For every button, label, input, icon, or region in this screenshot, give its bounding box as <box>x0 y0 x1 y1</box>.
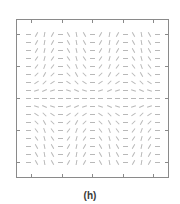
field-segment <box>98 98 103 99</box>
field-segment <box>155 114 160 115</box>
field-segment <box>26 50 31 51</box>
field-segment <box>90 34 95 35</box>
field-segment <box>90 82 95 83</box>
field-segment <box>115 98 120 99</box>
field-segment <box>123 154 128 155</box>
field-segment <box>155 146 160 147</box>
field-segment <box>155 122 160 123</box>
field-segment <box>155 162 160 163</box>
field-segment <box>131 98 136 99</box>
field-segment <box>155 154 160 155</box>
field-segment <box>58 90 63 91</box>
field-segment <box>107 98 112 99</box>
x-tick-top <box>153 19 154 23</box>
field-segment <box>26 130 31 131</box>
field-segment <box>90 74 95 75</box>
field-segment <box>90 50 95 51</box>
x-tick-bottom <box>153 174 154 178</box>
field-segment <box>108 159 110 164</box>
field-segment <box>123 106 128 107</box>
field-segment <box>90 66 95 67</box>
field-segment <box>90 106 95 107</box>
field-segment <box>155 130 160 131</box>
field-segment <box>26 138 31 139</box>
field-segment <box>26 146 31 147</box>
field-segment <box>123 42 128 43</box>
field-segment <box>26 162 31 163</box>
field-segment <box>155 50 160 51</box>
field-segment <box>90 130 95 131</box>
field-segment <box>90 146 95 147</box>
field-segment <box>155 138 160 139</box>
field-segment <box>123 146 128 147</box>
field-segment <box>42 98 47 99</box>
field-segment <box>155 82 160 83</box>
y-tick-left <box>16 130 20 131</box>
field-segment <box>58 42 63 43</box>
y-tick-left <box>16 34 20 35</box>
vector-field-figure: (h) <box>0 0 180 204</box>
field-segment <box>90 154 95 155</box>
field-segment <box>123 162 128 163</box>
y-tick-right <box>165 130 169 131</box>
x-tick-bottom <box>123 174 124 178</box>
x-tick-bottom <box>62 174 63 178</box>
field-segment <box>26 58 31 59</box>
field-segment <box>155 90 160 91</box>
field-segment <box>155 66 160 67</box>
x-tick-top <box>62 19 63 23</box>
field-segment <box>26 114 31 115</box>
field-segment <box>123 82 128 83</box>
field-segment <box>108 151 110 156</box>
field-segment <box>155 74 160 75</box>
field-segment <box>82 98 87 99</box>
field-segment <box>123 114 128 115</box>
field-segment <box>58 114 63 115</box>
field-segment <box>26 82 31 83</box>
y-tick-right <box>165 98 169 99</box>
field-segment <box>58 98 63 99</box>
field-segment <box>58 82 63 83</box>
field-segment <box>155 106 160 107</box>
field-segment <box>50 98 55 99</box>
field-segment <box>58 130 63 131</box>
field-segment <box>90 122 95 123</box>
field-segment <box>26 98 31 99</box>
field-segment <box>58 146 63 147</box>
field-segment <box>90 98 95 99</box>
field-segment <box>26 154 31 155</box>
field-segment <box>123 90 128 91</box>
field-segment <box>90 114 95 115</box>
field-segment <box>123 130 128 131</box>
field-segment <box>58 66 63 67</box>
field-segment <box>123 122 128 123</box>
x-tick-top <box>92 19 93 23</box>
field-segment <box>123 34 128 35</box>
field-segment <box>108 143 110 148</box>
field-segment <box>123 58 128 59</box>
y-tick-left <box>16 66 20 67</box>
field-segment <box>58 162 63 163</box>
field-segment <box>66 98 71 99</box>
field-segment <box>58 138 63 139</box>
field-segment <box>58 122 63 123</box>
field-segment <box>108 39 110 44</box>
y-tick-right <box>165 34 169 35</box>
y-tick-right <box>165 66 169 67</box>
field-segment <box>139 98 144 99</box>
field-segment <box>90 58 95 59</box>
field-segment <box>90 90 95 91</box>
field-segment <box>90 138 95 139</box>
field-segment <box>123 74 128 75</box>
field-segment <box>58 106 63 107</box>
field-segment <box>155 58 160 59</box>
field-segment <box>155 98 160 99</box>
field-segment <box>74 98 79 99</box>
field-segment <box>34 98 39 99</box>
x-tick-bottom <box>31 174 32 178</box>
field-segment <box>26 42 31 43</box>
field-segment <box>155 34 160 35</box>
field-segment <box>26 66 31 67</box>
figure-caption: (h) <box>0 190 180 201</box>
x-tick-bottom <box>92 174 93 178</box>
